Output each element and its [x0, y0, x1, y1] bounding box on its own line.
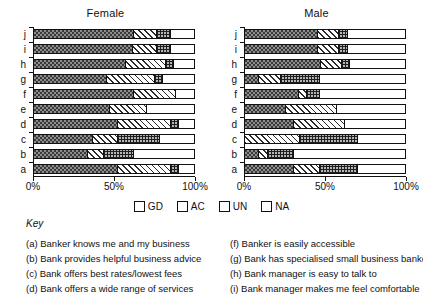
y-tick-label: e [0, 102, 31, 117]
y-axis-labels-female: a b c d e f g h i j [0, 27, 31, 177]
bar-segment-na [162, 75, 194, 83]
x-tick-label: 50% [315, 181, 335, 193]
y-tick-label: i [0, 42, 31, 57]
bar-segment-gd [245, 120, 293, 128]
bar-segment-gd [34, 165, 117, 173]
stacked-bar [244, 29, 406, 39]
legend-label-ac: AC [191, 201, 205, 212]
bar-segment-gd [34, 105, 109, 113]
y-tick-label: d [211, 117, 242, 132]
bar-segment-na [319, 75, 405, 83]
bar-row [244, 162, 406, 177]
stacked-bar [244, 134, 406, 144]
legend-label-gd: GD [148, 201, 163, 212]
bar-segment-ac [258, 75, 280, 83]
y-tick-label: a [211, 162, 242, 177]
stacked-bar [244, 44, 406, 54]
y-tick-label: c [211, 132, 242, 147]
bar-segment-ac [125, 60, 165, 68]
bar-row [33, 72, 195, 87]
bar-segment-un [154, 75, 162, 83]
y-tick-label: g [0, 72, 31, 87]
bar-segment-un [156, 30, 170, 38]
bar-segment-na [159, 135, 194, 143]
key-entry: (c) Bank offers best rates/lowest fees [26, 266, 230, 281]
panel-female: Female a b c d e f g h i j [0, 0, 211, 196]
bar-row [33, 42, 195, 57]
bar-segment-un [338, 30, 348, 38]
bar-segment-ac [132, 45, 156, 53]
bar-segment-gd [245, 60, 320, 68]
bar-segment-ac [92, 135, 118, 143]
bar-segment-ac [293, 120, 344, 128]
legend-label-na: NA [275, 201, 289, 212]
key-entry: (b) Bank provides helpful business advic… [26, 251, 230, 266]
bar-segment-ac [258, 150, 268, 158]
plot-area-male [244, 27, 406, 177]
bar-segment-gd [245, 105, 285, 113]
bar-segment-un [103, 150, 133, 158]
bar-row [244, 117, 406, 132]
stacked-bar [33, 74, 195, 84]
bar-segment-na [146, 105, 194, 113]
bar-segment-gd [34, 45, 132, 53]
bar-segment-ac [317, 45, 338, 53]
x-tick-label: 0% [237, 181, 251, 193]
bar-segment-gd [34, 120, 117, 128]
bar-segment-ac [109, 105, 146, 113]
bar-segment-gd [34, 60, 125, 68]
bar-segment-ac [285, 105, 336, 113]
bar-segment-ac [106, 75, 154, 83]
y-tick-label: h [211, 57, 242, 72]
legend-item-ac: AC [177, 201, 205, 212]
x-tick-label: 100% [182, 181, 208, 193]
y-tick-label: j [0, 27, 31, 42]
bar-segment-na [170, 30, 194, 38]
bar-row [244, 87, 406, 102]
key-entry: (f) Banker is easily accessible [230, 236, 423, 251]
plot-area-female [33, 27, 195, 177]
bar-row [33, 162, 195, 177]
bar-row [244, 27, 406, 42]
bar-segment-un [165, 60, 173, 68]
bar-segment-ac [245, 135, 299, 143]
legend-item-un: UN [219, 201, 247, 212]
legend-label-un: UN [233, 201, 247, 212]
bar-segment-ac [298, 90, 306, 98]
legend-swatch-na-icon [261, 201, 272, 212]
bar-segment-na [170, 45, 194, 53]
bar-row [33, 57, 195, 72]
bar-segment-un [170, 165, 178, 173]
y-tick-label: b [0, 147, 31, 162]
bar-segment-ac [293, 165, 319, 173]
bar-segment-na [175, 90, 194, 98]
bar-segment-un [319, 165, 357, 173]
legend-swatch-gd-icon [134, 201, 145, 212]
y-tick-label: f [0, 87, 31, 102]
bar-segment-un [299, 135, 357, 143]
bar-segment-un [341, 60, 349, 68]
bar-row [244, 42, 406, 57]
stacked-bar [244, 89, 406, 99]
bar-segment-na [344, 120, 405, 128]
bar-segment-na [357, 165, 405, 173]
stacked-bar [244, 164, 406, 174]
bar-segment-na [347, 30, 405, 38]
bar-segment-gd [245, 150, 258, 158]
y-tick-label: d [0, 117, 31, 132]
y-tick-label: j [211, 27, 242, 42]
bar-segment-gd [245, 90, 298, 98]
x-tick-label: 50% [104, 181, 124, 193]
bar-segment-gd [34, 90, 133, 98]
bar-segment-gd [245, 45, 317, 53]
x-axis-labels-male: 0%50%100% [211, 181, 422, 195]
stacked-bar [33, 149, 195, 159]
stacked-bar [33, 59, 195, 69]
bar-row [33, 147, 195, 162]
bar-segment-gd [34, 135, 92, 143]
bar-row [244, 57, 406, 72]
key-entry: (i) Bank manager makes me feel comfortab… [230, 281, 423, 296]
bar-segment-gd [34, 30, 133, 38]
bar-segment-na [133, 150, 194, 158]
key-column-left: (a) Banker knows me and my business (b) … [26, 236, 230, 296]
